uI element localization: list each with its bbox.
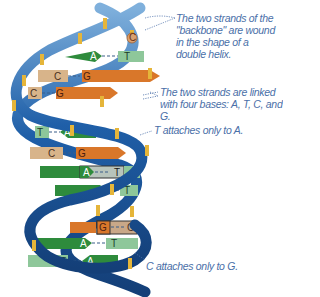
base-letter: T <box>37 127 43 138</box>
base-pair-c-g: C G <box>38 70 160 82</box>
annotation-t-attaches-a: T attaches only to A. <box>154 124 283 136</box>
base-letter: G <box>78 148 86 159</box>
base-letter: T <box>114 167 120 178</box>
base-letter: A <box>90 51 97 62</box>
base-letter: C <box>129 32 136 43</box>
annotation-c-attaches-g: C attaches only to G. <box>146 260 283 272</box>
base-pair-a-t: A T <box>35 238 138 249</box>
base-pair-c-g: C G <box>30 147 126 159</box>
base-letter: C <box>54 71 61 82</box>
base-letter: G <box>99 222 107 233</box>
base-pair-c-g: C G <box>28 87 118 99</box>
base-letter: T <box>111 238 117 249</box>
base-letter: A <box>83 167 90 178</box>
annotation-backbone: The two strands of the "backbone" are wo… <box>176 12 278 60</box>
base-letter: G <box>56 88 64 99</box>
base-letter: A <box>80 238 87 249</box>
base-letter: C <box>30 88 37 99</box>
base-pair-g-c-highlighted: G C <box>70 221 137 234</box>
annotation-bases: The two strands are linked with four bas… <box>160 86 283 122</box>
base-letter: T <box>124 51 130 62</box>
base-letter: C <box>48 148 55 159</box>
base-letter: G <box>83 71 91 82</box>
base-pair-a-t: A T <box>65 51 144 62</box>
